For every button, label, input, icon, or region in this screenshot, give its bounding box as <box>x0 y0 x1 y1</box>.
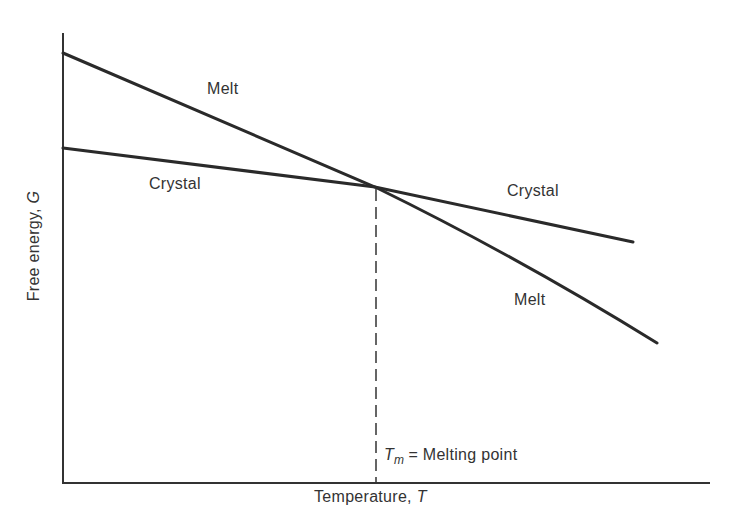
y-axis-symbol: G <box>25 191 42 204</box>
melt-label-upper: Melt <box>207 80 238 98</box>
x-axis-label-text: Temperature, <box>314 488 417 505</box>
x-axis-label: Temperature, T <box>314 488 427 506</box>
melt-label-lower: Melt <box>514 291 545 309</box>
crystal-label-right: Crystal <box>507 182 559 200</box>
y-axis-label: Free energy, G <box>25 191 43 302</box>
x-axis-symbol: T <box>417 488 427 505</box>
tm-text: = Melting point <box>408 446 517 463</box>
crystal-label-left: Crystal <box>149 175 201 193</box>
free-energy-diagram <box>0 0 743 526</box>
melting-point-label: Tm= Melting point <box>384 446 517 464</box>
y-axis-label-text: Free energy, <box>25 203 42 301</box>
tm-subscript: m <box>394 453 404 467</box>
melt-curve <box>63 53 657 343</box>
tm-symbol: T <box>384 446 394 463</box>
